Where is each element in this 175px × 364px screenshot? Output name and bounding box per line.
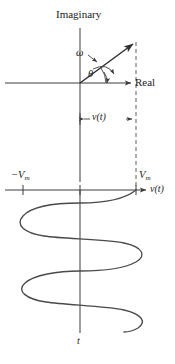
tick-label-positive-vm: Vm <box>139 170 151 182</box>
figure-canvas <box>0 0 175 364</box>
tick-label-pos-vm-subscript: m <box>145 174 150 182</box>
angle-label: θ <box>88 69 93 80</box>
sine-wave-curve <box>20 190 142 332</box>
time-axis-label: t <box>77 336 80 346</box>
real-axis-label: Real <box>135 77 155 88</box>
phasor-sinusoid-figure: Imaginary Real ω θ v(t) −Vm Vm v(t) t <box>0 0 175 364</box>
angular-velocity-label: ω <box>76 48 83 59</box>
theta-arc-icon <box>101 68 106 83</box>
tick-label-neg-vm-prefix: −V <box>11 169 25 180</box>
value-axis-label: v(t) <box>150 184 164 194</box>
projection-label-arg: (t) <box>96 111 105 122</box>
tick-label-neg-vm-subscript: m <box>25 174 30 182</box>
imaginary-axis-label: Imaginary <box>56 9 101 20</box>
value-axis-label-arg: (t) <box>154 183 163 194</box>
omega-leader-icon <box>88 55 97 62</box>
projection-label: v(t) <box>92 112 106 122</box>
tick-label-negative-vm: −Vm <box>11 170 30 182</box>
